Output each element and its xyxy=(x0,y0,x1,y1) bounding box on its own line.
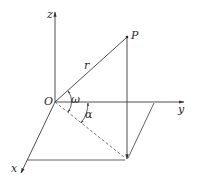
base-line-y-parallel xyxy=(128,103,154,158)
z-axis-label: z xyxy=(47,9,53,20)
x-axis xyxy=(21,102,55,173)
radius-label: r xyxy=(84,60,89,71)
y-axis-label: y xyxy=(178,104,184,115)
origin-label: O xyxy=(44,96,53,107)
x-axis-label: x xyxy=(11,163,17,174)
alpha-label: α xyxy=(85,109,92,120)
point-p-dot xyxy=(126,36,129,39)
omega-label: ω xyxy=(71,94,80,105)
point-p-label: P xyxy=(131,30,138,41)
coordinate-diagram xyxy=(0,0,198,190)
vector-r xyxy=(55,38,126,102)
